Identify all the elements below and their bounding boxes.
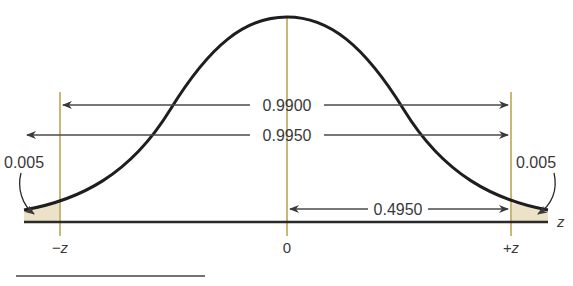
left-tail-label: 0.005 (4, 154, 44, 171)
area-0.9900-label: 0.9900 (263, 97, 312, 114)
z-axis-label: z (556, 213, 565, 230)
area-0.4950-label: 0.4950 (374, 201, 423, 218)
neg-z-tick-label: −z (52, 239, 69, 256)
area-0.9950-label: 0.9950 (263, 127, 312, 144)
right-tail-label: 0.005 (516, 154, 556, 171)
zero-tick-label: 0 (283, 239, 291, 256)
normal-curve-diagram: 0.9900 0.9950 0.4950 0.005 0.005 −z 0 +z… (0, 0, 573, 286)
pos-z-tick-label: +z (503, 239, 520, 256)
